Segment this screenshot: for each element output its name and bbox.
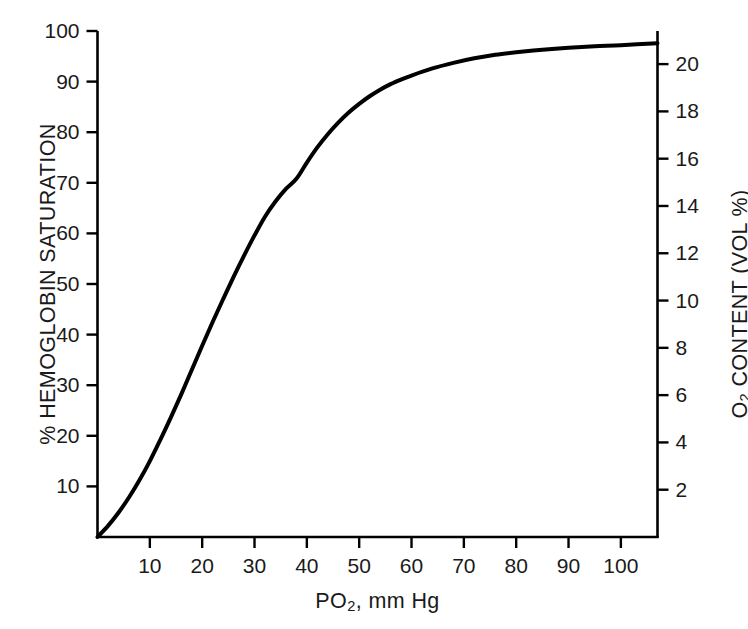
- y-axis-right-title: O2 CONTENT (VOL %): [728, 189, 748, 418]
- axes-group: [96, 31, 659, 537]
- x-axis-tick-label: 30: [243, 554, 266, 578]
- x-axis-tick-label: 50: [347, 554, 370, 578]
- y-axis-right-tick-label: 16: [676, 147, 699, 171]
- x-axis-tick-label: 100: [603, 554, 638, 578]
- x-axis-tick-label: 10: [138, 554, 161, 578]
- x-axis-title-main: PO: [315, 589, 347, 613]
- y-axis-left-title: % HEMOGLOBIN SATURATION: [36, 123, 61, 444]
- dissociation-curve: [98, 43, 658, 537]
- y-axis-left-tick-label: 90: [56, 70, 79, 94]
- y-axis-right-tick-label: 18: [676, 99, 699, 123]
- y-axis-right-tick-label: 4: [676, 430, 688, 454]
- y-axis-right-title-subscript: 2: [737, 393, 748, 402]
- y-axis-right-tick-label: 6: [676, 383, 688, 407]
- x-axis-tick-label: 40: [295, 554, 318, 578]
- x-axis-title-tail: , mm Hg: [356, 589, 440, 613]
- x-axis-tick-label: 60: [400, 554, 423, 578]
- x-axis-tick-label: 70: [452, 554, 475, 578]
- y-axis-right-tick-label: 20: [676, 52, 699, 76]
- y-axis-left-tick-label: 100: [44, 19, 79, 43]
- plot-canvas: [0, 0, 748, 629]
- y-axis-right-tick-label: 12: [676, 241, 699, 265]
- y-axis-right-tick-label: 8: [676, 336, 688, 360]
- tick-marks-group: [87, 31, 669, 548]
- x-axis-tick-label: 80: [505, 554, 528, 578]
- y-axis-left-tick-label: 10: [56, 474, 79, 498]
- x-axis-tick-label: 20: [190, 554, 213, 578]
- y-axis-right-title-tail: CONTENT (VOL %): [728, 189, 748, 393]
- y-axis-right-tick-label: 10: [676, 289, 699, 313]
- y-axis-right-tick-label: 14: [676, 194, 699, 218]
- y-axis-right-title-main: O: [728, 401, 748, 418]
- x-axis-title: PO2, mm Hg: [315, 589, 439, 614]
- x-axis-tick-label: 90: [557, 554, 580, 578]
- y-axis-right-tick-label: 2: [676, 478, 688, 502]
- oxyhemoglobin-dissociation-chart: 102030405060708090100 2468101214161820 1…: [0, 0, 748, 629]
